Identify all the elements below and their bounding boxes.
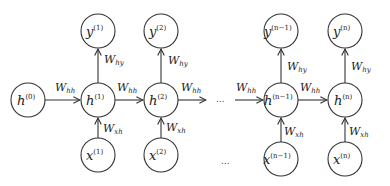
node-xn1: x(n−1) — [263, 142, 298, 176]
node-h0: h(0) — [11, 83, 45, 117]
edge-in-hn1: Whh — [235, 81, 263, 100]
node-y2: y(2) — [144, 14, 178, 48]
node-y1: y(1) — [81, 14, 115, 48]
edge-h1-h2: Whh — [115, 81, 143, 100]
svg-text:Why: Why — [104, 53, 125, 67]
edge-h0-h1: Whh — [45, 81, 80, 100]
svg-text:Whh: Whh — [117, 81, 137, 95]
ellipsis-bottom: ... — [221, 156, 230, 166]
ellipsis-middle: ... — [216, 94, 225, 104]
edge-h1-y1: Why — [98, 49, 125, 83]
svg-text:Why: Why — [287, 60, 308, 74]
svg-text:Wxh: Wxh — [349, 125, 369, 139]
svg-text:Why: Why — [351, 60, 372, 74]
svg-text:Wxh: Wxh — [166, 121, 186, 135]
edge-h2-out: Whh — [178, 81, 206, 100]
edge-xn-hn: Wxh — [345, 118, 369, 142]
node-x2: x(2) — [144, 138, 178, 172]
node-hn1: h(n−1) — [264, 83, 298, 117]
svg-text:Whh: Whh — [181, 81, 201, 95]
edge-x2-h2: Wxh — [161, 118, 186, 138]
svg-text:Whh: Whh — [300, 81, 320, 95]
node-yn: y(n) — [328, 14, 362, 48]
node-yn1: y(n−1) — [263, 14, 298, 48]
node-xn: x(n) — [328, 142, 362, 176]
svg-text:Wxh: Wxh — [103, 122, 123, 136]
rnn-diagram: Whh Whh Whh ... Whh Whh Why Why Why Why … — [0, 0, 390, 186]
node-h1: h(1) — [81, 83, 115, 117]
node-hn: h(n) — [328, 83, 362, 117]
node-h2: h(2) — [144, 83, 178, 117]
svg-text:Why: Why — [168, 54, 189, 68]
edge-hn-yn: Why — [345, 49, 372, 83]
svg-text:Whh: Whh — [236, 81, 256, 95]
edge-xn1-hn1: Wxh — [281, 118, 304, 142]
edge-hn1-yn1: Why — [281, 49, 308, 83]
svg-text:Whh: Whh — [55, 81, 75, 95]
svg-text:Wxh: Wxh — [284, 125, 304, 139]
edge-h2-y2: Why — [161, 49, 189, 83]
edge-hn1-hn: Whh — [298, 81, 327, 100]
node-x1: x(1) — [81, 138, 115, 172]
edge-x1-h1: Wxh — [98, 118, 123, 138]
